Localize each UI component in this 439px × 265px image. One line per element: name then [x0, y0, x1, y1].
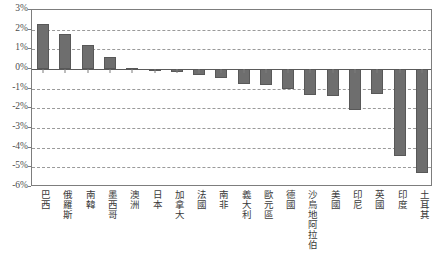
x-axis-tick-mark — [399, 69, 400, 73]
x-axis-category-label: 美國 — [324, 190, 340, 210]
x-axis-tick-mark — [355, 69, 356, 73]
bar[interactable] — [349, 69, 361, 110]
bar-slot — [188, 10, 210, 185]
x-axis-tick-mark — [87, 69, 88, 73]
x-axis-tick-mark — [332, 69, 333, 73]
x-axis-category-label: 德國 — [279, 190, 295, 210]
y-axis-tick-label: -4% — [0, 142, 28, 152]
y-axis-tick-label: -6% — [0, 181, 28, 191]
y-axis-tick-label: 2% — [0, 24, 28, 34]
bar[interactable] — [104, 57, 116, 69]
y-axis-tick-label: -1% — [0, 83, 28, 93]
bars-layer — [32, 10, 431, 185]
x-axis-tick-mark — [43, 69, 44, 73]
x-axis-category-label: 南非 — [212, 190, 228, 210]
x-axis-tick-mark — [176, 69, 177, 73]
bar-slot — [277, 10, 299, 185]
bar-slot — [388, 10, 410, 185]
x-axis-tick-mark — [65, 69, 66, 73]
bar[interactable] — [394, 69, 406, 156]
x-axis-tick-mark — [132, 69, 133, 73]
x-axis-tick-mark — [221, 69, 222, 73]
bar[interactable] — [37, 24, 49, 69]
x-axis-category-label: 巴西 — [34, 190, 50, 210]
x-axis-tick-mark — [154, 69, 155, 73]
y-axis-tick-label: 3% — [0, 4, 28, 14]
x-axis-tick-mark — [199, 69, 200, 73]
bar-slot — [233, 10, 255, 185]
bar-slot — [121, 10, 143, 185]
bar[interactable] — [416, 69, 428, 173]
x-axis-category-label: 墨西哥 — [101, 190, 117, 220]
x-axis-tick-mark — [288, 69, 289, 73]
x-axis-category-label: 澳洲 — [123, 190, 139, 210]
x-axis-category-label: 南韓 — [79, 190, 95, 210]
bar[interactable] — [82, 45, 94, 69]
x-axis-category-label: 加拿大 — [168, 190, 184, 220]
y-axis-tick-label: -2% — [0, 103, 28, 113]
y-axis-tick-label: 1% — [0, 44, 28, 54]
x-axis-category-label: 沙烏地阿拉伯 — [301, 190, 317, 250]
x-axis-category-label: 法國 — [190, 190, 206, 210]
bar-slot — [210, 10, 232, 185]
x-axis-tick-mark — [243, 69, 244, 73]
y-axis: 3%2%1%0%-1%-2%-3%-4%-5%-6% — [0, 9, 31, 186]
bar-slot — [255, 10, 277, 185]
x-axis-category-label: 日本 — [146, 190, 162, 210]
y-axis-tick-label: 0% — [0, 63, 28, 73]
bar-slot — [99, 10, 121, 185]
bar-slot — [366, 10, 388, 185]
x-axis-category-label: 英國 — [368, 190, 384, 210]
bar-slot — [32, 10, 54, 185]
bar-slot — [166, 10, 188, 185]
x-axis-tick-mark — [310, 69, 311, 73]
x-axis-tick-mark — [109, 69, 110, 73]
y-axis-tick-label: -3% — [0, 122, 28, 132]
bar-slot — [143, 10, 165, 185]
y-axis-tick-label: -5% — [0, 162, 28, 172]
x-axis-category-label: 義大利 — [235, 190, 251, 220]
x-axis-tick-mark — [421, 69, 422, 73]
bar-slot — [411, 10, 433, 185]
x-axis-labels: 巴西俄羅斯南韓墨西哥澳洲日本加拿大法國南非義大利歐元區德國沙烏地阿拉伯美國印尼英… — [31, 190, 432, 264]
x-axis-tick-mark — [265, 69, 266, 73]
y-axis-tick-mark — [28, 186, 31, 187]
bar-slot — [77, 10, 99, 185]
bar-chart: 3%2%1%0%-1%-2%-3%-4%-5%-6% 巴西俄羅斯南韓墨西哥澳洲日… — [0, 0, 439, 265]
x-axis-category-label: 印尼 — [346, 190, 362, 210]
bar-slot — [344, 10, 366, 185]
x-axis-category-label: 印度 — [391, 190, 407, 210]
bar[interactable] — [59, 34, 71, 69]
bar-slot — [54, 10, 76, 185]
x-axis-category-label: 歐元區 — [257, 190, 273, 220]
x-axis-category-label: 土耳其 — [413, 190, 429, 220]
bar-slot — [322, 10, 344, 185]
plot-area — [31, 9, 432, 186]
x-axis-tick-mark — [377, 69, 378, 73]
bar-slot — [299, 10, 321, 185]
x-axis-category-label: 俄羅斯 — [56, 190, 72, 220]
